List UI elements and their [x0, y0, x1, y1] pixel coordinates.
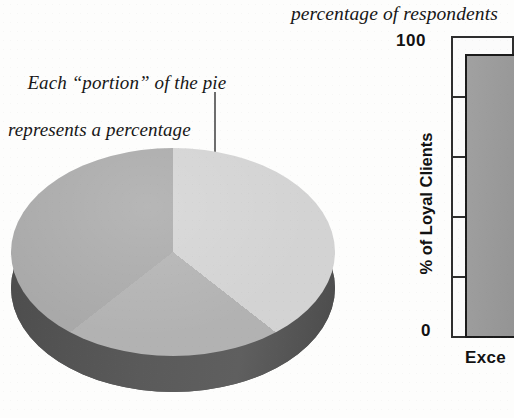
pie-callout-line-2: represents a percentage	[8, 118, 226, 141]
x-axis-category-label: Exce	[465, 348, 506, 368]
bar-chart-caption: percentage of respondents	[291, 2, 498, 26]
y-axis-min-label: 0	[421, 321, 431, 341]
y-axis-title: % of Loyal Clients	[417, 109, 436, 299]
bar-chart: 100 0 % of Loyal Clients Exce	[392, 28, 514, 418]
pie-top-face	[11, 148, 335, 356]
bar-texture	[467, 56, 514, 336]
bar-excellent	[465, 54, 514, 338]
pie-chart	[11, 148, 335, 402]
y-axis-max-label: 100	[396, 31, 426, 51]
pie-callout-line-1: Each “portion” of the pie	[27, 72, 226, 93]
figure-page: percentage of respondents Each “portion”…	[0, 0, 514, 418]
